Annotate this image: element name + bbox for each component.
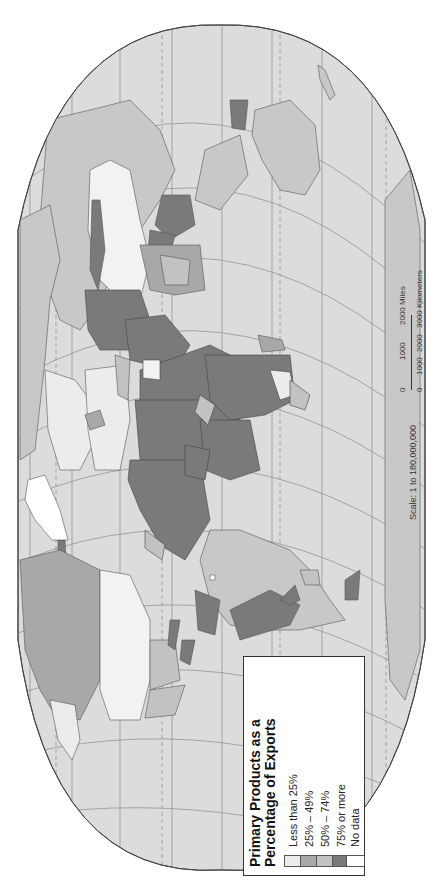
scale-km-tick: 2000 [415,334,424,352]
scale-km-tick: 3000 Kilometers [415,270,424,328]
legend-swatch [346,855,365,867]
legend-item-50-74: 50% – 74% [318,791,332,867]
legend-label: 50% – 74% [319,791,331,847]
legend-label: 25% – 49% [303,791,315,847]
legend-label: 75% or more [335,784,347,847]
scale-bar [411,315,412,390]
legend-label: No data [349,808,361,847]
scale-mile-tick: 2000 Miles [398,286,407,325]
legend: Primary Products as a Percentage of Expo… [243,656,365,876]
legend-item-no-data: No data [348,808,362,867]
legend-item-less-than-25: Less than 25% [286,774,300,867]
map-scale: Scale: 1 to 180,000,000 0 1000 2000 Mile… [398,230,428,520]
legend-title-line-1: Primary Products as a [248,657,263,867]
legend-title: Primary Products as a Percentage of Expo… [248,657,278,867]
legend-item-25-49: 25% – 49% [302,791,316,867]
scale-mile-tick: 1000 [398,342,407,360]
legend-title-line-2: Percentage of Exports [263,657,278,867]
scale-km-tick: 1000 [415,357,424,375]
legend-content: Primary Products as a Percentage of Expo… [244,657,364,875]
scale-ratio: Scale: 1 to 180,000,000 [408,425,418,520]
scale-mile-tick: 0 [398,388,407,392]
world-map [0,0,441,892]
legend-label: Less than 25% [287,774,299,847]
scale-km-tick: 0 [415,388,424,392]
scale-content: Scale: 1 to 180,000,000 0 1000 2000 Mile… [398,230,428,520]
